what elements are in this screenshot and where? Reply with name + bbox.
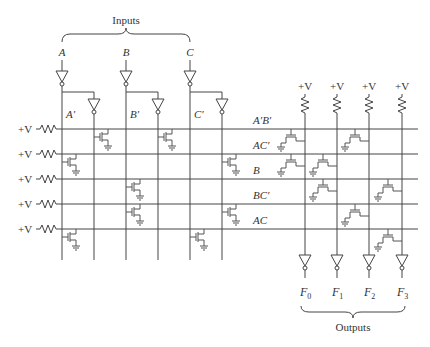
svg-text:+V: +V (18, 123, 32, 135)
nmos-transistor-icon (374, 179, 402, 201)
resistor-icon (36, 125, 62, 133)
term-label-4: AC (252, 214, 268, 226)
nmos-transistor-icon (222, 204, 240, 225)
nmos-transistor-icon (341, 129, 369, 151)
nmos-transistor-icon (222, 154, 240, 175)
input-c-label: C (186, 46, 194, 58)
row-1: +V (18, 148, 418, 160)
inputs-label: Inputs (112, 14, 140, 26)
product-term-rows: +V +V +V +V +V (18, 123, 418, 235)
svg-text:+V: +V (18, 198, 32, 210)
nmos-transistor-icon (374, 229, 402, 251)
row-2: +V (18, 173, 418, 185)
nmos-transistor-icon (126, 204, 144, 225)
svg-text:+V: +V (18, 223, 32, 235)
row-4: +V (18, 223, 418, 235)
and-plane-transistors (62, 129, 240, 250)
term-label-3: BC′ (253, 189, 270, 201)
nmos-transistor-icon (62, 229, 80, 250)
c-complement-label: C′ (194, 108, 204, 120)
b-complement-label: B′ (130, 108, 140, 120)
nmos-transistor-icon (126, 179, 144, 200)
nmos-transistor-icon (62, 154, 80, 175)
input-b-label: B (123, 46, 130, 58)
inverter-icon (299, 255, 311, 278)
resistor-icon (36, 175, 62, 183)
resistor-icon (333, 94, 341, 255)
inputs-brace-icon (62, 28, 190, 42)
inverter-icon (120, 60, 164, 260)
pla-circuit-diagram: Inputs A B C (0, 0, 430, 347)
inverter-icon (363, 255, 375, 278)
resistor-icon (398, 94, 406, 255)
row-0: +V (18, 123, 418, 135)
output-inverters (299, 255, 408, 278)
nmos-transistor-icon (190, 229, 208, 250)
outputs-brace-icon (301, 306, 405, 318)
inverter-icon (396, 255, 408, 278)
term-label-2: B (253, 164, 260, 176)
row-3: +V (18, 198, 418, 210)
a-complement-label: A′ (65, 108, 76, 120)
or-plane-transistors (277, 129, 402, 251)
input-a-label: A (58, 46, 66, 58)
nmos-transistor-icon (309, 179, 337, 201)
svg-text:+V: +V (395, 80, 409, 92)
svg-text:+V: +V (18, 173, 32, 185)
output-f1-label: F1 (331, 285, 343, 301)
inverter-icon (184, 60, 228, 260)
svg-text:+V: +V (330, 80, 344, 92)
resistor-icon (36, 150, 62, 158)
term-label-0: A′B′ (252, 114, 272, 126)
resistor-icon (365, 94, 373, 255)
inverter-icon (56, 60, 100, 260)
nmos-transistor-icon (309, 154, 337, 176)
resistor-icon (301, 94, 309, 255)
nmos-transistor-icon (277, 154, 305, 176)
resistor-icon (36, 225, 62, 233)
input-buffers (56, 60, 228, 260)
output-f0-label: F0 (299, 285, 311, 301)
nmos-transistor-icon (94, 129, 112, 150)
output-f2-label: F2 (363, 285, 375, 301)
output-f3-label: F3 (396, 285, 408, 301)
inverter-icon (331, 255, 343, 278)
nmos-transistor-icon (158, 129, 176, 150)
resistor-icon (36, 200, 62, 208)
outputs-label: Outputs (336, 321, 371, 333)
svg-text:+V: +V (362, 80, 376, 92)
nmos-transistor-icon (277, 129, 305, 151)
svg-text:+V: +V (18, 148, 32, 160)
nmos-transistor-icon (341, 204, 369, 226)
svg-text:+V: +V (298, 80, 312, 92)
term-label-1: AC′ (252, 139, 270, 151)
